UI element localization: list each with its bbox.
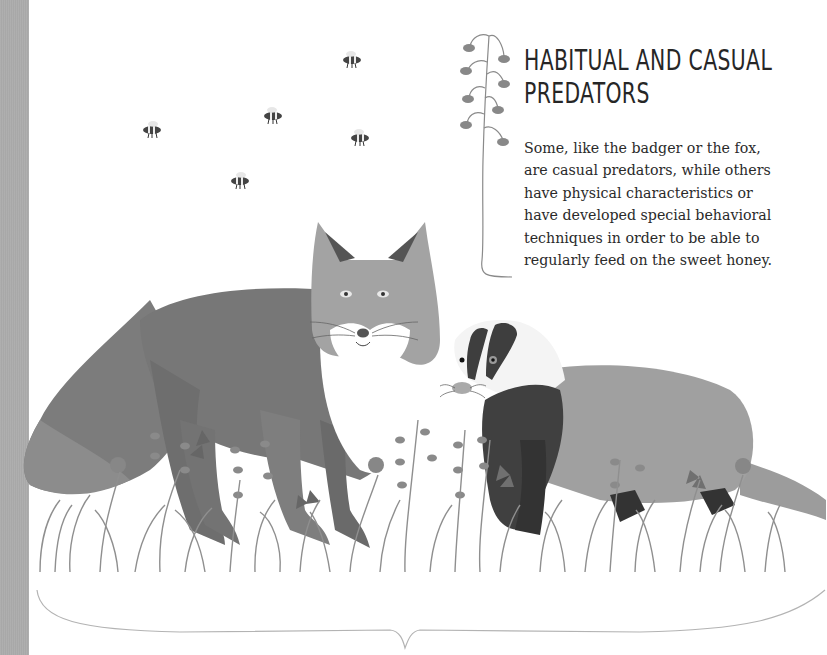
body-line: techniques in order to be able to (524, 227, 827, 249)
heading-line-1: HABITUAL AND CASUAL (524, 44, 727, 77)
heading-line-2: PREDATORS (524, 77, 727, 110)
section-heading: HABITUAL AND CASUAL PREDATORS (524, 44, 727, 110)
body-line: regularly feed on the sweet honey. (524, 249, 827, 271)
body-paragraph: Some, like the badger or the fox, are ca… (524, 137, 827, 271)
flower-stem-icon (467, 35, 512, 277)
bee-icon (143, 51, 369, 189)
body-line: have physical characteristics or (524, 182, 827, 204)
body-line: Some, like the badger or the fox, (524, 137, 827, 159)
body-line: have developed special behavioral (524, 204, 827, 226)
badger-illustration (440, 320, 826, 535)
brace-divider (37, 590, 825, 648)
body-line: are casual predators, while others (524, 159, 827, 181)
